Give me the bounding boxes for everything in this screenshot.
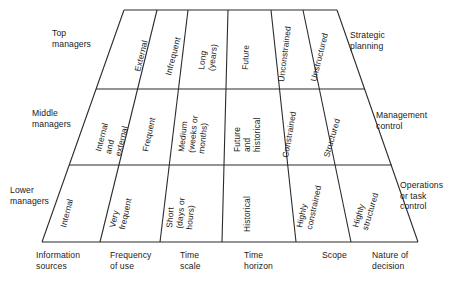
cell-lower-frequency-of-use: Very frequent [107,195,133,231]
row-lower-cells: Internal Very frequent Short (days or ho… [58,182,380,232]
row-top-cells: External Infrequent Long (years) Future … [132,25,330,82]
cell-top-time-horizon: Future [240,44,251,70]
cell-top-time-scale: Long (years) [196,42,219,71]
cell-top-scope: Unconstrained [276,25,293,82]
axis-label-frequency-of-use: Frequency of use [110,250,182,271]
column-divider-3 [222,10,228,242]
cell-middle-time-horizon: Future and historical [232,117,262,152]
cell-lower-nature-of-decision: Highly structured [350,188,380,231]
left-label-middle-managers: Middle managers [32,108,110,129]
axis-label-nature-of-decision: Nature of decision [372,250,444,271]
cell-middle-frequency-of-use: Frequent [140,116,157,153]
axis-label-information-sources: Information sources [36,250,112,271]
cell-lower-scope: Highly constrained [294,182,323,230]
diagram-canvas: External Infrequent Long (years) Future … [0,0,472,281]
left-label-lower-managers: Lower managers [10,185,88,206]
right-label-management-control: Management control [376,110,472,131]
cell-lower-time-scale: Short (days or hours) [164,193,197,229]
cell-top-nature-of-decision: Unstructured [308,32,330,83]
cell-middle-time-scale: Medium (weeks or months) [176,111,210,154]
axis-label-time-horizon: Time horizon [244,250,298,271]
axis-label-time-scale: Time scale [180,250,230,271]
left-label-top-managers: Top managers [52,28,124,49]
cell-lower-time-horizon: Historical [242,196,252,232]
cell-top-information-sources: External [132,39,149,72]
cell-middle-nature-of-decision: Structured [321,117,342,159]
right-label-strategic-planning: Strategic planning [350,30,462,51]
axis-label-scope: Scope [322,250,370,261]
right-label-operations-control: Operations or task control [400,180,472,212]
cell-top-frequency-of-use: Infrequent [163,36,182,77]
